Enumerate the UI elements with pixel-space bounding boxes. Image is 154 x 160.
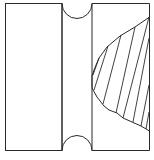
hatch-line (146, 112, 149, 129)
hatch-line (94, 46, 108, 90)
hatched-region (92, 17, 150, 131)
hatch-line (93, 58, 99, 75)
diagram-canvas (0, 0, 154, 160)
hatched-region-boundary (92, 17, 150, 131)
top-notch (62, 4, 92, 19)
right-block (92, 4, 150, 151)
hatch-line (116, 27, 135, 113)
left-block (6, 4, 63, 151)
cross-section-diagram (0, 0, 154, 160)
bottom-notch (62, 136, 92, 151)
hatch-line (103, 35, 121, 104)
middle-strip (62, 4, 92, 151)
hatch-line (133, 38, 149, 122)
